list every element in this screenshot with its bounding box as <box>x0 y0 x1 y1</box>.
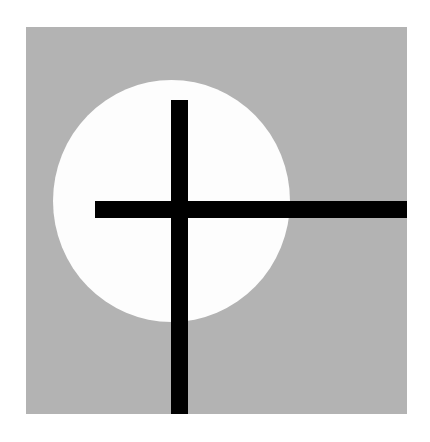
horizontal-black-bar <box>95 201 407 218</box>
vertical-black-bar <box>171 100 188 414</box>
